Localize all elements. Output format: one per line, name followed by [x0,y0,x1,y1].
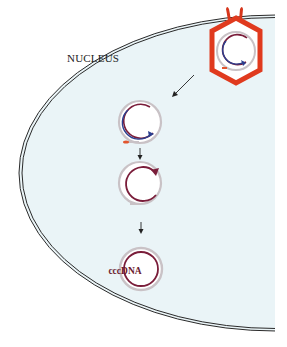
repaired-dna-circle [119,162,161,204]
diagram-canvas [0,0,287,347]
rcdna-circle [119,101,161,144]
cccdna-label: cccDNA [100,266,150,276]
nucleus-label: NUCLEUS [67,52,119,64]
capsid [212,18,260,83]
